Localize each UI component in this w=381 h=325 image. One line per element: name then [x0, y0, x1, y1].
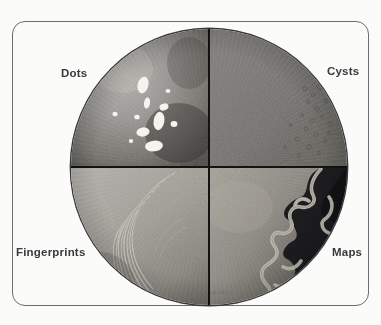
- photo-credit: NEI/NIH: [210, 290, 228, 295]
- cysts-texture: [209, 29, 347, 167]
- quadrant-dots: [71, 29, 209, 167]
- quadrant-maps: [209, 167, 347, 305]
- dots-texture: [71, 29, 209, 167]
- quadrant-cysts: [209, 29, 347, 167]
- maps-texture: [209, 167, 347, 305]
- quadrant-divider-horizontal: [71, 166, 347, 168]
- label-dots: Dots: [61, 67, 87, 79]
- corneal-diagram-circle: [71, 29, 347, 305]
- label-cysts: Cysts: [327, 65, 359, 77]
- quadrant-fingerprints: [71, 167, 209, 305]
- fingerprints-texture: [71, 167, 209, 305]
- label-maps: Maps: [332, 246, 362, 258]
- label-fingerprints: Fingerprints: [16, 246, 86, 258]
- figure-plate: Dots Cysts Fingerprints Maps NEI/NIH: [0, 0, 381, 325]
